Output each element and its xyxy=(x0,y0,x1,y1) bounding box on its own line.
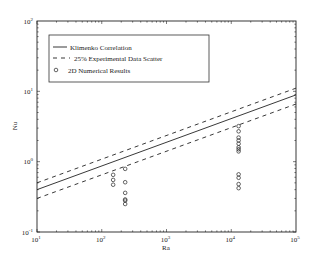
data-point-marker xyxy=(237,182,241,186)
y-tick-label: 101 xyxy=(24,87,34,96)
legend: Klimenko Correlation 25% Experimental Da… xyxy=(49,35,209,82)
legend-item-label: 2D Numerical Results xyxy=(68,67,130,75)
data-point-marker xyxy=(111,183,115,187)
data-point-marker xyxy=(123,191,127,195)
y-axis-label: Nu xyxy=(11,121,19,130)
y-tick-label: 100 xyxy=(24,157,34,166)
data-point-marker xyxy=(237,186,241,190)
y-tick-label: 102 xyxy=(24,17,34,26)
scatter-bound-line xyxy=(37,88,296,183)
series-layer xyxy=(37,88,296,206)
chart: 101102103104105 10-1100101102 Ra Nu Klim… xyxy=(0,0,315,261)
scatter-bound-line xyxy=(37,104,296,198)
x-axis-label: Ra xyxy=(162,244,171,252)
correlation-line xyxy=(37,95,296,190)
data-point-marker xyxy=(111,178,115,182)
data-point-marker xyxy=(237,130,241,134)
x-tick-label: 102 xyxy=(96,235,106,244)
data-point-marker xyxy=(111,173,115,177)
data-point-marker xyxy=(123,202,127,206)
data-point-marker xyxy=(237,124,241,128)
y-axis-tick-labels: 10-1100101102 xyxy=(22,17,34,237)
x-axis-tick-labels: 101102103104105 xyxy=(31,235,300,244)
legend-item-label: Klimenko Correlation xyxy=(70,44,132,52)
x-tick-label: 104 xyxy=(226,235,236,244)
x-tick-label: 103 xyxy=(161,235,171,244)
x-tick-label: 101 xyxy=(31,235,41,244)
data-point-marker xyxy=(237,173,241,177)
data-point-marker xyxy=(123,180,127,184)
legend-item-label: 25% Experimental Data Scatter xyxy=(74,55,163,63)
data-point-marker xyxy=(237,176,241,180)
data-point-marker xyxy=(123,167,127,171)
x-tick-label: 105 xyxy=(290,235,300,244)
